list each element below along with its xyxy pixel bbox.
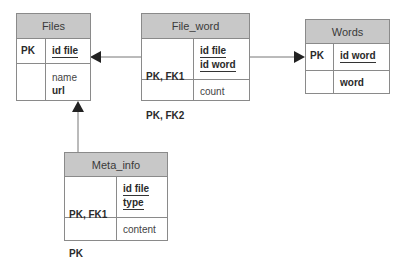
attribute: content	[117, 218, 156, 240]
key-row: PK id word	[306, 44, 389, 70]
key-label: PK	[306, 44, 334, 70]
entity-title: Words	[306, 20, 389, 44]
arrowhead-words-icon	[294, 51, 305, 63]
key-attribute: type	[123, 197, 144, 210]
key-attribute: id file	[123, 183, 149, 196]
attribute: name	[52, 71, 77, 84]
entity-file-word[interactable]: File_word PK, FK1 PK, FK2 id file id wor…	[141, 13, 250, 101]
attribute: word	[334, 71, 364, 93]
entity-title: File_word	[142, 14, 249, 39]
attribute-row: name url	[17, 63, 90, 100]
entity-files[interactable]: Files PK id file name url	[16, 13, 91, 101]
arrowhead-files-bottom-icon	[72, 101, 84, 112]
entity-title: Files	[17, 14, 90, 39]
key-row: PK, FK1 PK, FK2 id file id word	[142, 39, 249, 79]
attribute-row: word	[306, 70, 389, 93]
entity-words[interactable]: Words PK id word word	[305, 19, 390, 94]
key-attribute: id file	[200, 45, 226, 58]
key-label: PK	[17, 39, 46, 63]
attribute: count	[194, 80, 224, 100]
key-label: PK, FK2	[146, 109, 193, 122]
attribute-row: count	[142, 79, 249, 100]
arrowhead-files-icon	[90, 51, 101, 63]
key-label: PK	[69, 247, 116, 260]
key-row: PK, FK1 PK id file type	[65, 177, 167, 217]
key-attribute: id file	[52, 45, 78, 58]
entity-title: Meta_info	[65, 153, 167, 177]
key-attribute: id word	[200, 59, 236, 72]
entity-meta-info[interactable]: Meta_info PK, FK1 PK id file type conten…	[64, 152, 168, 241]
key-row: PK id file	[17, 39, 90, 63]
key-attribute: id word	[340, 50, 376, 63]
attribute-row: content	[65, 217, 167, 240]
attribute: url	[52, 84, 77, 97]
